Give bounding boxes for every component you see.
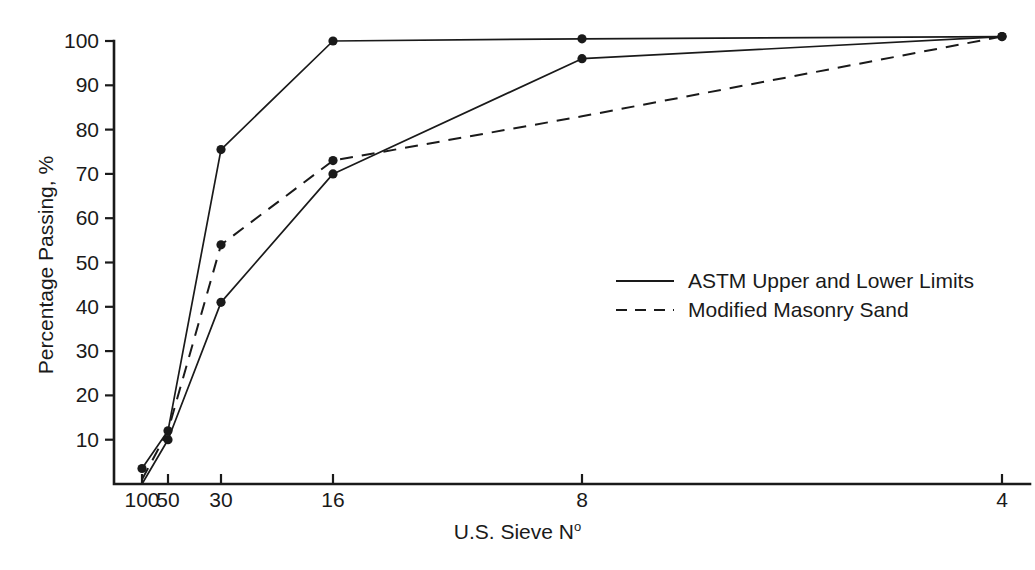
x-tick-label: 8 — [576, 488, 588, 511]
x-axis-tick-labels: 10050301684 — [124, 488, 1008, 511]
chart-data-markers — [137, 32, 1006, 473]
chart-legend: ASTM Upper and Lower Limits Modified Mas… — [616, 266, 974, 324]
legend-item-astm-limits: ASTM Upper and Lower Limits — [616, 266, 974, 295]
data-point-marker — [997, 32, 1006, 41]
data-point-marker — [577, 54, 586, 63]
data-point-marker — [163, 426, 172, 435]
y-tick-label: 10 — [76, 428, 99, 451]
y-tick-label: 30 — [76, 339, 99, 362]
data-point-marker — [216, 145, 225, 154]
y-tick-label: 60 — [76, 206, 99, 229]
x-axis-title-main: U.S. Sieve N — [454, 520, 574, 543]
data-point-marker — [216, 298, 225, 307]
x-axis-title-superscript: o — [574, 519, 581, 534]
x-tick-label: 4 — [996, 488, 1008, 511]
series-line — [142, 37, 1002, 484]
legend-swatch-dashed — [616, 303, 674, 317]
y-axis-tick-labels: 102030405060708090100 — [64, 29, 99, 451]
y-tick-label: 20 — [76, 383, 99, 406]
x-tick-label: 50 — [156, 488, 179, 511]
x-tick-label: 100 — [124, 488, 159, 511]
y-axis-title: Percentage Passing, % — [34, 115, 58, 415]
y-tick-label: 40 — [76, 295, 99, 318]
legend-item-modified-masonry-sand: Modified Masonry Sand — [616, 295, 974, 324]
legend-swatch-solid — [616, 274, 674, 288]
x-tick-label: 30 — [209, 488, 232, 511]
series-line — [142, 37, 1002, 469]
y-tick-label: 100 — [64, 29, 99, 52]
y-tick-label: 80 — [76, 118, 99, 141]
grain-size-distribution-chart: 102030405060708090100 10050301684 Percen… — [0, 0, 1035, 570]
x-tick-label: 16 — [321, 488, 344, 511]
data-point-marker — [216, 240, 225, 249]
chart-series — [142, 37, 1002, 484]
data-point-marker — [137, 464, 146, 473]
series-line — [142, 37, 1002, 480]
data-point-marker — [163, 435, 172, 444]
x-axis-title: U.S. Sieve No — [0, 519, 1035, 544]
data-point-marker — [328, 36, 337, 45]
chart-axes — [105, 41, 1030, 484]
legend-label-modified-masonry-sand: Modified Masonry Sand — [688, 298, 909, 322]
y-tick-label: 70 — [76, 162, 99, 185]
legend-label-astm-limits: ASTM Upper and Lower Limits — [688, 269, 974, 293]
data-point-marker — [328, 169, 337, 178]
y-tick-label: 50 — [76, 251, 99, 274]
data-point-marker — [328, 156, 337, 165]
data-point-marker — [577, 34, 586, 43]
y-tick-label: 90 — [76, 73, 99, 96]
